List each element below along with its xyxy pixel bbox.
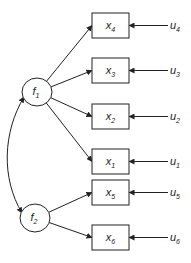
error-label: u4	[170, 19, 180, 33]
loading-arrow	[51, 71, 92, 87]
error-label: u2	[170, 110, 180, 124]
error-label: u1	[170, 155, 180, 169]
error-label: u3	[170, 64, 180, 78]
loading-arrow	[49, 223, 92, 238]
factor-model-diagram: f1f2x4u4x3u3x2u2x1u1x5u5x6u6	[0, 0, 191, 263]
loading-arrow	[46, 103, 92, 162]
covariance-arc	[7, 97, 24, 213]
factor-f2: f2	[20, 204, 50, 232]
loading-arrow	[49, 193, 92, 213]
error-label: u5	[170, 186, 180, 200]
factor-f1: f1	[22, 78, 52, 106]
loading-arrow	[51, 98, 92, 117]
error-label: u6	[170, 231, 180, 245]
nodes: f1f2x4u4x3u3x2u2x1u1x5u5x6u6	[20, 13, 180, 250]
